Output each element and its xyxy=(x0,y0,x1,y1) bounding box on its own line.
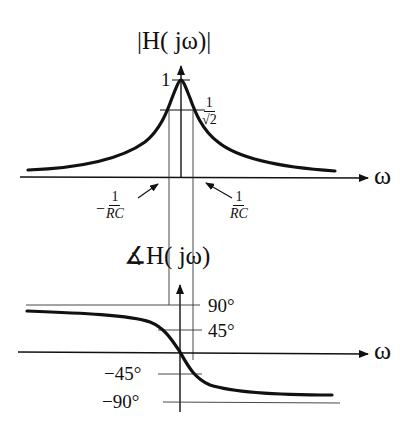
phase-omega-label: ω xyxy=(374,338,391,364)
minus-ninety-degree-line xyxy=(163,402,340,403)
phase-title: ∡H( jω) xyxy=(124,243,210,268)
magnitude-omega-label: ω xyxy=(374,163,391,189)
magnitude-plot xyxy=(20,66,368,360)
right-cutoff-label: 1 RC xyxy=(230,190,248,221)
tick-minus-90: −90° xyxy=(102,392,139,411)
tick-minus-45: −45° xyxy=(104,364,141,383)
plot-canvas xyxy=(0,0,417,431)
left-cutoff-arrow xyxy=(138,184,158,198)
half-power-label: 1 √2 xyxy=(202,96,217,127)
phase-omega-axis xyxy=(18,352,368,354)
left-cutoff-label: 1 RC xyxy=(106,190,124,221)
peak-value-label: 1 xyxy=(161,70,171,89)
magnitude-title: |H( jω)| xyxy=(137,28,211,53)
left-cutoff-sign: − xyxy=(96,200,105,218)
magnitude-omega-axis xyxy=(20,177,368,178)
tick-90: 90° xyxy=(208,296,235,315)
right-cutoff-arrow xyxy=(206,183,232,198)
tick-45: 45° xyxy=(208,321,235,340)
